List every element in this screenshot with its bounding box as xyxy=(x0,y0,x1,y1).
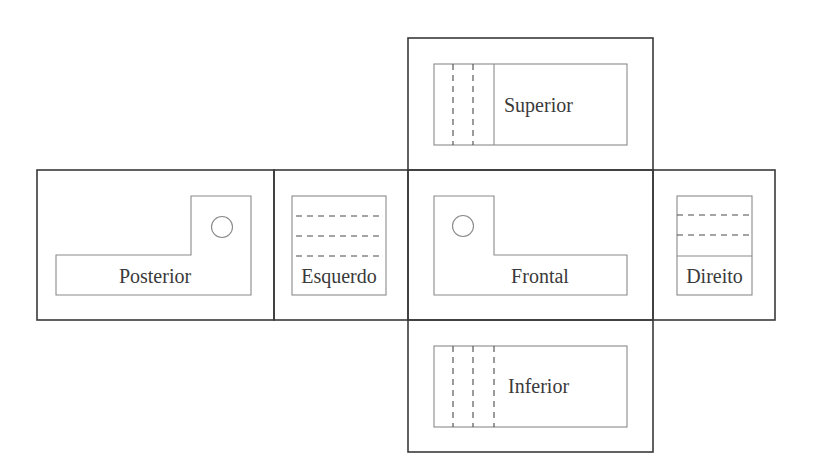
orthographic-projection-diagram: Superior Posterior Esquerdo Frontal Dire… xyxy=(0,0,813,472)
view-frame-esquerdo xyxy=(274,170,408,320)
middle-row-frames xyxy=(37,170,775,320)
view-frontal: Frontal xyxy=(434,196,627,295)
view-esquerdo: Esquerdo xyxy=(292,196,386,295)
view-posterior: Posterior xyxy=(56,196,251,295)
view-superior: Superior xyxy=(408,38,653,170)
view-direito: Direito xyxy=(677,196,752,295)
label-superior: Superior xyxy=(504,94,573,117)
label-frontal: Frontal xyxy=(511,265,569,287)
label-direito: Direito xyxy=(686,265,743,287)
label-inferior: Inferior xyxy=(508,375,569,397)
view-frame-direito xyxy=(653,170,775,320)
label-posterior: Posterior xyxy=(119,265,192,287)
hole-circle-posterior xyxy=(212,217,233,238)
view-frame-posterior xyxy=(37,170,274,320)
view-frame-frontal xyxy=(408,170,653,320)
label-esquerdo: Esquerdo xyxy=(301,265,377,288)
hole-circle-frontal xyxy=(453,216,474,237)
view-inferior: Inferior xyxy=(408,320,653,452)
